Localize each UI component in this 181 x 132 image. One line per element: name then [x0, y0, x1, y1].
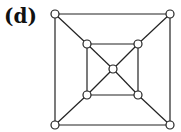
edge [138, 95, 170, 125]
edge [138, 14, 170, 44]
graph-diagram [0, 0, 181, 132]
node-inner-tr [134, 40, 142, 48]
node-center [109, 65, 117, 73]
node-outer-tr [166, 10, 174, 18]
node-outer-tl [51, 10, 59, 18]
edge [113, 44, 138, 69]
node-outer-br [166, 121, 174, 129]
node-inner-tl [83, 40, 91, 48]
edge [87, 69, 113, 95]
edge [55, 95, 87, 125]
edge [87, 44, 113, 69]
node-inner-br [134, 91, 142, 99]
node-outer-bl [51, 121, 59, 129]
node-inner-bl [83, 91, 91, 99]
edge [113, 69, 138, 95]
edge [55, 14, 87, 44]
